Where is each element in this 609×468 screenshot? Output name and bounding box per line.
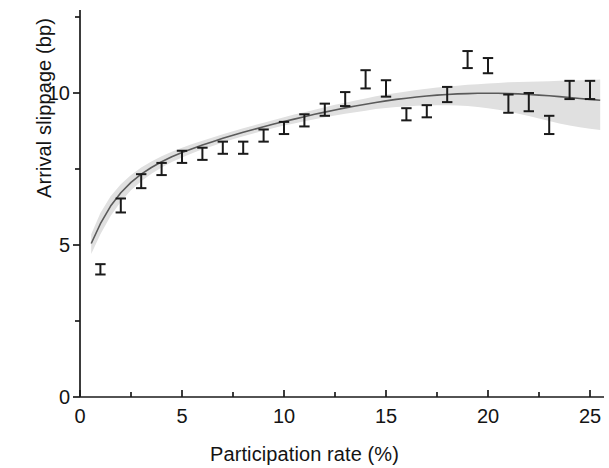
errorbar-marker — [360, 70, 370, 88]
xaxis-tick-label: 15 — [375, 405, 397, 428]
errorbar-marker — [401, 108, 411, 120]
errorbar-marker — [462, 51, 472, 68]
yaxis-title-container: Arrival slippage (bp) — [33, 0, 73, 268]
chart-figure: 05101520250510 Arrival slippage (bp) Par… — [0, 0, 609, 468]
xaxis-tick-label: 5 — [176, 405, 187, 428]
errorbar-marker — [483, 58, 493, 73]
errorbar-marker — [95, 264, 105, 274]
xaxis-tick-label: 25 — [579, 405, 601, 428]
fitted-curve — [91, 93, 600, 243]
fitted-curve-path — [91, 93, 600, 243]
errorbar-marker — [422, 105, 432, 117]
axis-lines — [73, 10, 604, 397]
yaxis-title: Arrival slippage (bp) — [33, 18, 56, 198]
xaxis-title: Participation rate (%) — [0, 443, 609, 466]
plot-canvas — [0, 0, 609, 468]
xaxis-tick-label: 20 — [477, 405, 499, 428]
errorbar-marker — [238, 142, 248, 154]
xaxis-tick-label: 0 — [74, 405, 85, 428]
xaxis-tick-label: 10 — [273, 405, 295, 428]
yaxis-tick-label: 0 — [59, 386, 70, 409]
